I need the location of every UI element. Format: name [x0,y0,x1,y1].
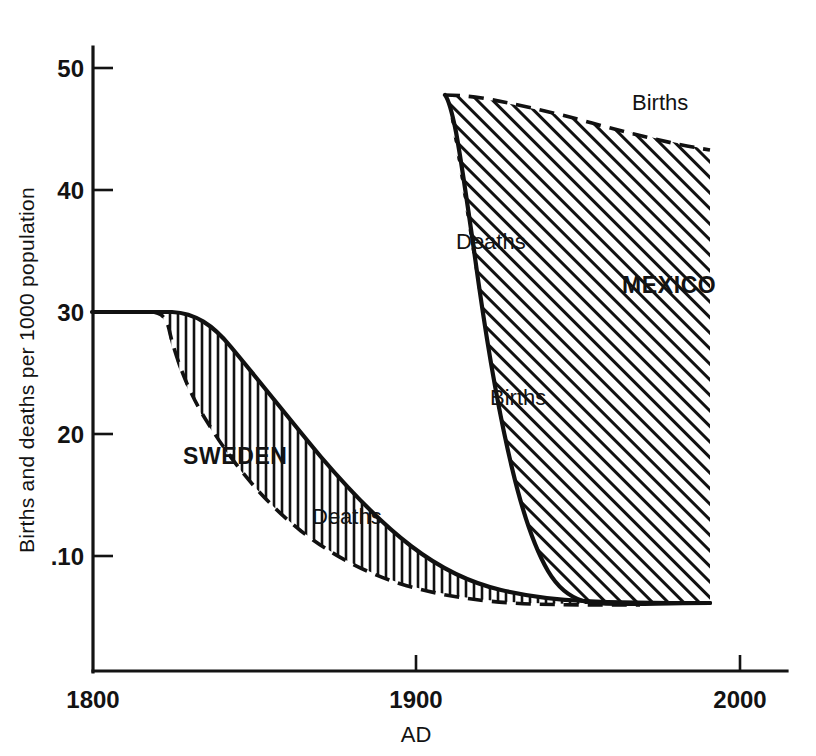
mexico-deaths-label: Deaths [456,229,526,254]
sweden-deaths-label: Deaths [312,504,382,529]
x-axis-title: AD [401,722,432,747]
sweden-births-label: Births [490,385,546,410]
x-tick-label-2000: 2000 [713,686,766,713]
demographic-transition-chart: 50 40 30 20 .10 1800 1900 2000 AD Births… [0,0,816,756]
y-tick-label-40: 40 [57,177,84,204]
y-tick-label-20: 20 [57,421,84,448]
sweden-region-label: SWEDEN [183,443,288,469]
y-tick-label-50: 50 [57,55,84,82]
mexico-region-label: MEXICO [622,272,716,298]
x-tick-label-1900: 1900 [389,686,442,713]
y-tick-label-10: .10 [51,543,84,570]
mexico-births-label: Births [632,90,688,115]
x-tick-label-1800: 1800 [66,686,119,713]
y-axis-title: Births and deaths per 1000 population [15,187,38,553]
y-tick-label-30: 30 [57,299,84,326]
chart-page: 50 40 30 20 .10 1800 1900 2000 AD Births… [0,0,816,756]
